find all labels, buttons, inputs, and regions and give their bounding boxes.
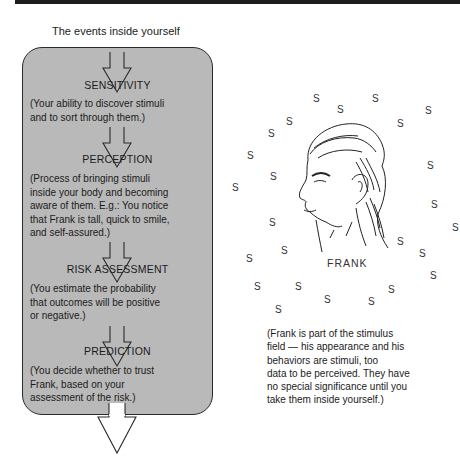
stimulus-mark: S xyxy=(254,281,261,292)
stimulus-mark: S xyxy=(388,284,395,295)
stimulus-mark: S xyxy=(427,160,434,171)
stimulus-mark: S xyxy=(313,93,320,104)
stimulus-mark: S xyxy=(397,118,404,129)
top-rule xyxy=(15,0,460,4)
stimulus-mark: S xyxy=(247,150,254,161)
stimulus-mark: S xyxy=(246,253,253,264)
stage-description-perception: (Process of bringing stimuli inside your… xyxy=(30,172,215,240)
stimulus-mark: S xyxy=(232,182,239,193)
stage-label-prediction: PREDICTION xyxy=(22,345,213,357)
stimulus-mark: S xyxy=(425,105,432,116)
figure-caption: (Frank is part of the stimulus field — h… xyxy=(267,327,457,407)
diagram-heading: The events inside yourself xyxy=(52,25,180,37)
stimulus-mark: S xyxy=(372,93,379,104)
stage-label-sensitivity: SENSITIVITY xyxy=(22,79,213,91)
stimulus-mark: S xyxy=(368,296,375,307)
frank-label: FRANK xyxy=(327,257,368,269)
stimulus-mark: S xyxy=(419,248,426,259)
stimulus-mark: S xyxy=(452,222,459,233)
stimulus-mark: S xyxy=(286,116,293,127)
stage-label-risk-assessment: RISK ASSESSMENT xyxy=(22,263,213,275)
stimulus-mark: S xyxy=(397,236,404,247)
stage-label-perception: PERCEPTION xyxy=(22,153,213,165)
stimulus-mark: S xyxy=(281,245,288,256)
frank-head-illustration xyxy=(296,118,396,258)
stage-description-risk-assessment: (You estimate the probability that outco… xyxy=(30,282,215,323)
stimulus-mark: S xyxy=(337,104,344,115)
stimulus-mark: S xyxy=(431,199,438,210)
stimulus-mark: S xyxy=(268,128,275,139)
stimulus-mark: S xyxy=(324,294,331,305)
stimulus-mark: S xyxy=(269,217,276,228)
stimulus-mark: S xyxy=(430,270,437,281)
down-arrow-icon xyxy=(94,403,140,455)
stage-description-sensitivity: (Your ability to discover stimuli and to… xyxy=(30,97,215,124)
stimulus-mark: S xyxy=(270,171,277,182)
stimulus-mark: S xyxy=(295,281,302,292)
stimulus-mark: S xyxy=(275,304,282,315)
stage-description-prediction: (You decide whether to trust Frank, base… xyxy=(30,364,215,405)
